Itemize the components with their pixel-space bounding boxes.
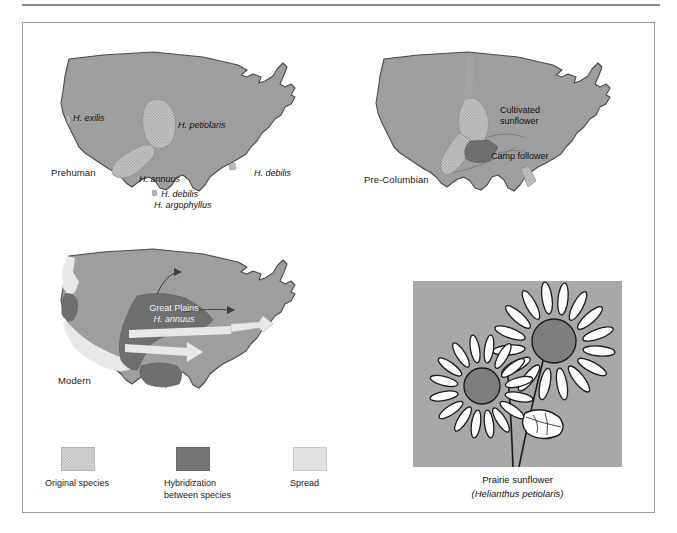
legend-label-spread: Spread (290, 477, 360, 489)
flower-disc-lower (464, 368, 500, 404)
usa-silhouette (376, 52, 610, 191)
map-panel-pre-columbian: Pre-Columbian Cultivated sunflower Camp … (348, 41, 633, 216)
legend-label-original-species: Original species (45, 477, 145, 489)
hybridization-west-coast (62, 294, 78, 321)
label-h-exilis: H. exilis (73, 113, 105, 124)
sunflower-caption: Prairie sunflower (Helianthus petiolaris… (413, 473, 622, 501)
spread-swatch (293, 447, 327, 471)
map-panel-modern: Modern Great Plains H. annuus (33, 238, 333, 423)
original-species-swatch (61, 447, 95, 471)
top-horizontal-rule (22, 4, 660, 6)
legend-item-spread: Spread (293, 447, 360, 489)
label-h-debilis-southeast: H. debilis (254, 168, 291, 179)
label-great-plains: Great Plains (136, 303, 212, 314)
hybridization-swatch (176, 447, 210, 471)
map-panel-prehuman: Prehuman H. exilis H. petiolaris H. annu… (33, 41, 318, 216)
label-h-debilis-texas: H. debilis (161, 189, 198, 200)
label-modern-h-annuus: H. annuus (136, 314, 212, 325)
label-h-argophyllus: H. argophyllus (154, 200, 212, 211)
figure-page: Prehuman H. exilis H. petiolaris H. annu… (0, 0, 677, 533)
era-label-prehuman: Prehuman (51, 167, 96, 178)
sunflower-illustration (413, 281, 622, 467)
label-camp-follower: Camp follower (491, 151, 549, 162)
figure-frame: Prehuman H. exilis H. petiolaris H. annu… (22, 22, 655, 513)
flower-disc-upper (532, 319, 576, 363)
label-h-petiolaris: H. petiolaris (178, 120, 226, 131)
legend-item-original-species: Original species (61, 447, 145, 489)
era-label-pre-columbian: Pre-Columbian (364, 174, 429, 185)
legend: Original species Hybridization between s… (61, 447, 371, 507)
hybridization-south (140, 363, 182, 387)
label-sunflower: sunflower (500, 116, 539, 127)
label-h-annuus: H. annuus (139, 174, 180, 185)
sunflower-illustration-panel (413, 281, 622, 467)
era-label-modern: Modern (58, 375, 91, 386)
legend-item-hybridization: Hybridization between species (176, 447, 264, 501)
debilis-southeast-range (229, 163, 236, 170)
label-cultivated: Cultivated (500, 105, 540, 116)
legend-label-hybridization: Hybridization between species (164, 477, 264, 501)
usa-map-pre-columbian (348, 41, 633, 216)
petiolaris-range (143, 99, 176, 148)
usa-map-modern (33, 238, 333, 423)
debilis-texas-range (152, 190, 157, 196)
sunflower-scientific-name: (Helianthus petiolaris) (413, 487, 622, 501)
sunflower-common-name: Prairie sunflower (413, 473, 622, 487)
